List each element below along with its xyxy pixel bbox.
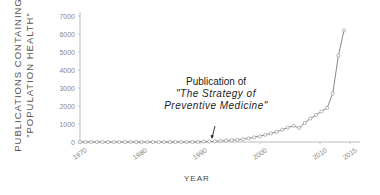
data-point-marker [129, 140, 132, 143]
data-point-marker [180, 140, 183, 143]
data-point-marker [95, 140, 98, 143]
data-point-marker [191, 140, 194, 143]
x-tick-label: 2010 [311, 146, 328, 161]
data-point-marker [90, 140, 93, 143]
x-tick-label: 1980 [131, 146, 148, 161]
y-axis-label-line-1: PUBLICATIONS CONTAINING [12, 0, 24, 152]
data-point-marker [208, 140, 211, 143]
y-tick-label: 2000 [59, 103, 75, 110]
annotation-arrow [211, 126, 216, 139]
data-point-marker [163, 140, 166, 143]
annotation-text: Publication of "The Strategy of Preventi… [158, 76, 274, 112]
data-point-marker [78, 140, 81, 143]
data-point-marker [264, 133, 267, 136]
data-point-marker [219, 139, 222, 142]
data-point-marker [101, 140, 104, 143]
annotation-line-2: "The Strategy of [158, 88, 274, 100]
data-point-marker [269, 132, 272, 135]
y-tick-label: 4000 [59, 67, 75, 74]
data-point-marker [253, 136, 256, 139]
data-point-marker [326, 106, 329, 109]
data-point-marker [146, 140, 149, 143]
data-point-marker [112, 140, 115, 143]
data-point-marker [309, 117, 312, 120]
data-point-marker [303, 122, 306, 125]
x-axis-label: YEAR [184, 174, 210, 183]
data-point-marker [281, 128, 284, 131]
y-tick-label: 1000 [59, 121, 75, 128]
y-tick-label: 0 [71, 139, 75, 146]
y-axis-label: PUBLICATIONS CONTAINING "POPULATION HEAL… [4, 5, 44, 145]
data-point-marker [230, 139, 233, 142]
data-point-marker [314, 113, 317, 116]
data-point-marker [292, 124, 295, 127]
y-tick-label: 7000 [59, 13, 75, 20]
y-tick-label: 5000 [59, 49, 75, 56]
data-point-marker [135, 140, 138, 143]
y-tick-label: 6000 [59, 31, 75, 38]
data-point-marker [157, 140, 160, 143]
x-tick-label: 1990 [191, 146, 208, 161]
data-point-marker [84, 140, 87, 143]
x-tick-label: 2000 [251, 146, 268, 161]
data-point-marker [247, 137, 250, 140]
data-point-marker [297, 126, 300, 129]
data-point-marker [320, 110, 323, 113]
y-axis-label-line-2: "POPULATION HEALTH" [24, 0, 36, 152]
y-tick-label: 3000 [59, 85, 75, 92]
data-point-marker [331, 92, 334, 95]
data-point-marker [123, 140, 126, 143]
data-point-marker [202, 140, 205, 143]
data-point-marker [258, 135, 261, 138]
data-point-marker [286, 126, 289, 129]
data-point-marker [342, 29, 345, 32]
data-point-marker [174, 140, 177, 143]
data-point-marker [151, 140, 154, 143]
annotation-line-1: Publication of [158, 76, 274, 88]
x-tick-label: 2015 [341, 146, 358, 161]
data-point-marker [168, 140, 171, 143]
data-point-marker [118, 140, 121, 143]
data-point-marker [275, 130, 278, 133]
x-tick-label: 1970 [71, 146, 88, 161]
data-point-marker [224, 139, 227, 142]
data-point-marker [337, 54, 340, 57]
data-point-marker [106, 140, 109, 143]
data-point-marker [213, 140, 216, 143]
annotation-line-3: Preventive Medicine" [158, 100, 274, 112]
data-point-marker [196, 140, 199, 143]
data-point-marker [236, 138, 239, 141]
data-point-marker [185, 140, 188, 143]
data-point-marker [140, 140, 143, 143]
data-point-marker [241, 138, 244, 141]
